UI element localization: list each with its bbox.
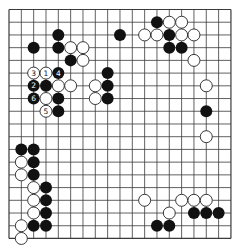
black-stone-circle bbox=[188, 207, 200, 219]
black-stone[interactable] bbox=[40, 220, 52, 232]
black-stone[interactable] bbox=[114, 29, 126, 41]
white-stone[interactable] bbox=[151, 29, 163, 41]
white-stone[interactable] bbox=[188, 29, 200, 41]
white-stone-circle bbox=[40, 93, 52, 105]
white-stone[interactable] bbox=[15, 156, 27, 168]
white-stone[interactable]: 5 bbox=[40, 105, 52, 117]
white-stone[interactable] bbox=[200, 80, 212, 92]
white-stone[interactable] bbox=[89, 80, 101, 92]
white-stone[interactable] bbox=[28, 207, 40, 219]
black-stone[interactable] bbox=[102, 80, 114, 92]
white-stone[interactable] bbox=[200, 194, 212, 206]
go-board[interactable]: 426315 bbox=[0, 0, 241, 248]
black-stone[interactable] bbox=[163, 42, 175, 54]
white-stone-circle bbox=[89, 80, 101, 92]
white-stone[interactable] bbox=[77, 42, 89, 54]
white-stone[interactable] bbox=[176, 29, 188, 41]
black-stone[interactable] bbox=[40, 207, 52, 219]
move-number-label: 6 bbox=[31, 94, 36, 103]
white-stone[interactable] bbox=[163, 207, 175, 219]
black-stone-circle bbox=[151, 16, 163, 28]
black-stone[interactable] bbox=[163, 220, 175, 232]
black-stone-circle bbox=[40, 182, 52, 194]
black-stone[interactable]: 2 bbox=[28, 80, 40, 92]
black-stone-circle bbox=[28, 169, 40, 181]
black-stone[interactable] bbox=[52, 29, 64, 41]
black-stone-circle bbox=[28, 156, 40, 168]
white-stone[interactable] bbox=[89, 93, 101, 105]
black-stone[interactable] bbox=[213, 207, 225, 219]
white-stone-circle bbox=[176, 16, 188, 28]
white-stone[interactable] bbox=[139, 194, 151, 206]
black-stone[interactable] bbox=[151, 220, 163, 232]
white-stone[interactable] bbox=[65, 42, 77, 54]
black-stone-circle bbox=[28, 143, 40, 155]
black-stone-circle bbox=[52, 29, 64, 41]
black-stone[interactable] bbox=[151, 16, 163, 28]
white-stone[interactable]: 3 bbox=[28, 67, 40, 79]
black-stone[interactable] bbox=[52, 42, 64, 54]
move-number-label: 1 bbox=[44, 69, 49, 78]
black-stone[interactable] bbox=[200, 207, 212, 219]
black-stone-circle bbox=[163, 29, 175, 41]
black-stone[interactable] bbox=[28, 169, 40, 181]
black-stone[interactable] bbox=[40, 182, 52, 194]
black-stone[interactable]: 4 bbox=[52, 67, 64, 79]
white-stone[interactable] bbox=[163, 16, 175, 28]
white-stone-circle bbox=[89, 93, 101, 105]
white-stone-circle bbox=[139, 29, 151, 41]
white-stone-circle bbox=[28, 207, 40, 219]
white-stone[interactable] bbox=[28, 182, 40, 194]
white-stone-circle bbox=[15, 220, 27, 232]
white-stone-circle bbox=[188, 194, 200, 206]
white-stone[interactable] bbox=[65, 80, 77, 92]
white-stone[interactable] bbox=[176, 194, 188, 206]
white-stone[interactable] bbox=[52, 80, 64, 92]
black-stone[interactable] bbox=[52, 105, 64, 117]
black-stone-circle bbox=[213, 207, 225, 219]
black-stone[interactable] bbox=[65, 54, 77, 66]
black-stone[interactable]: 6 bbox=[28, 93, 40, 105]
black-stone[interactable] bbox=[163, 29, 175, 41]
black-stone[interactable] bbox=[102, 67, 114, 79]
black-stone[interactable] bbox=[40, 194, 52, 206]
black-stone[interactable] bbox=[28, 143, 40, 155]
white-stone[interactable] bbox=[28, 194, 40, 206]
black-stone[interactable] bbox=[200, 105, 212, 117]
black-stone[interactable] bbox=[102, 93, 114, 105]
black-stone[interactable] bbox=[188, 207, 200, 219]
black-stone[interactable] bbox=[52, 93, 64, 105]
black-stone[interactable] bbox=[15, 143, 27, 155]
white-stone-circle bbox=[163, 207, 175, 219]
white-stone-circle bbox=[65, 42, 77, 54]
white-stone-circle bbox=[77, 54, 89, 66]
white-stone-circle bbox=[188, 29, 200, 41]
white-stone[interactable] bbox=[139, 29, 151, 41]
white-stone[interactable]: 1 bbox=[40, 67, 52, 79]
white-stone[interactable] bbox=[188, 54, 200, 66]
black-stone[interactable] bbox=[28, 156, 40, 168]
white-stone[interactable] bbox=[40, 93, 52, 105]
black-stone[interactable] bbox=[28, 42, 40, 54]
white-stone[interactable] bbox=[15, 220, 27, 232]
black-stone-circle bbox=[163, 220, 175, 232]
white-stone[interactable] bbox=[15, 169, 27, 181]
black-stone-circle bbox=[40, 194, 52, 206]
white-stone-circle bbox=[52, 80, 64, 92]
white-stone[interactable] bbox=[15, 232, 27, 244]
black-stone-circle bbox=[15, 143, 27, 155]
black-stone-circle bbox=[102, 80, 114, 92]
white-stone[interactable] bbox=[188, 194, 200, 206]
black-stone-circle bbox=[40, 80, 52, 92]
white-stone[interactable] bbox=[176, 16, 188, 28]
black-stone[interactable] bbox=[40, 80, 52, 92]
black-stone-circle bbox=[176, 42, 188, 54]
black-stone[interactable] bbox=[28, 220, 40, 232]
white-stone-circle bbox=[176, 194, 188, 206]
black-stone-circle bbox=[114, 29, 126, 41]
go-board-grid[interactable]: 426315 bbox=[0, 0, 241, 248]
white-stone[interactable] bbox=[77, 54, 89, 66]
black-stone[interactable] bbox=[176, 42, 188, 54]
white-stone[interactable] bbox=[200, 131, 212, 143]
black-stone-circle bbox=[102, 67, 114, 79]
